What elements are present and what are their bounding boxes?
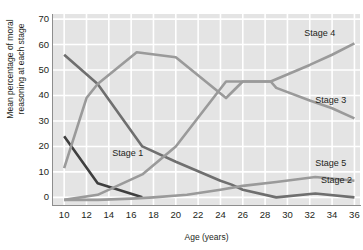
x-tick-label: 12 <box>75 209 97 220</box>
series-label-stage-5: Stage 5 <box>315 158 346 168</box>
x-tick-label: 14 <box>98 209 120 220</box>
y-tick-label: 20 <box>25 141 49 151</box>
chart-root: Mean percentage of moral reasoning at ea… <box>0 0 363 250</box>
x-tick-label: 10 <box>53 209 75 220</box>
y-axis-title: Mean percentage of moral reasoning at ea… <box>5 0 27 159</box>
x-axis-title: Age (years) <box>53 232 360 242</box>
x-axis-line <box>53 205 361 206</box>
x-tick-label: 16 <box>120 209 142 220</box>
x-tick-label: 30 <box>276 209 298 220</box>
y-axis-tick-labels: 010203040506070 <box>25 0 49 250</box>
plot-svg <box>53 14 360 205</box>
x-tick-label: 34 <box>321 209 343 220</box>
y-tick-label: 50 <box>25 65 49 75</box>
plot-area <box>53 14 360 205</box>
y-tick-label: 10 <box>25 167 49 177</box>
y-tick-label: 30 <box>25 116 49 126</box>
y-tick-label: 0 <box>25 192 49 202</box>
x-tick-label: 32 <box>299 209 321 220</box>
series-label-stage-2: Stage 2 <box>321 175 352 185</box>
y-axis-line <box>52 14 53 206</box>
x-tick-label: 20 <box>165 209 187 220</box>
series-label-stage-4: Stage 4 <box>304 28 335 38</box>
y-tick-label: 40 <box>25 90 49 100</box>
series-label-stage-3: Stage 3 <box>315 95 346 105</box>
x-tick-label: 36 <box>343 209 363 220</box>
series-line-stage-5 <box>64 177 354 200</box>
x-tick-label: 18 <box>142 209 164 220</box>
y-tick-label: 60 <box>25 40 49 50</box>
x-tick-label: 22 <box>187 209 209 220</box>
x-tick-label: 28 <box>254 209 276 220</box>
x-tick-label: 26 <box>232 209 254 220</box>
y-tick-label: 70 <box>25 14 49 24</box>
series-label-stage-1: Stage 1 <box>112 148 143 158</box>
x-tick-label: 24 <box>209 209 231 220</box>
x-axis-tick-labels: 1012141618202224262830323436 <box>53 209 360 225</box>
